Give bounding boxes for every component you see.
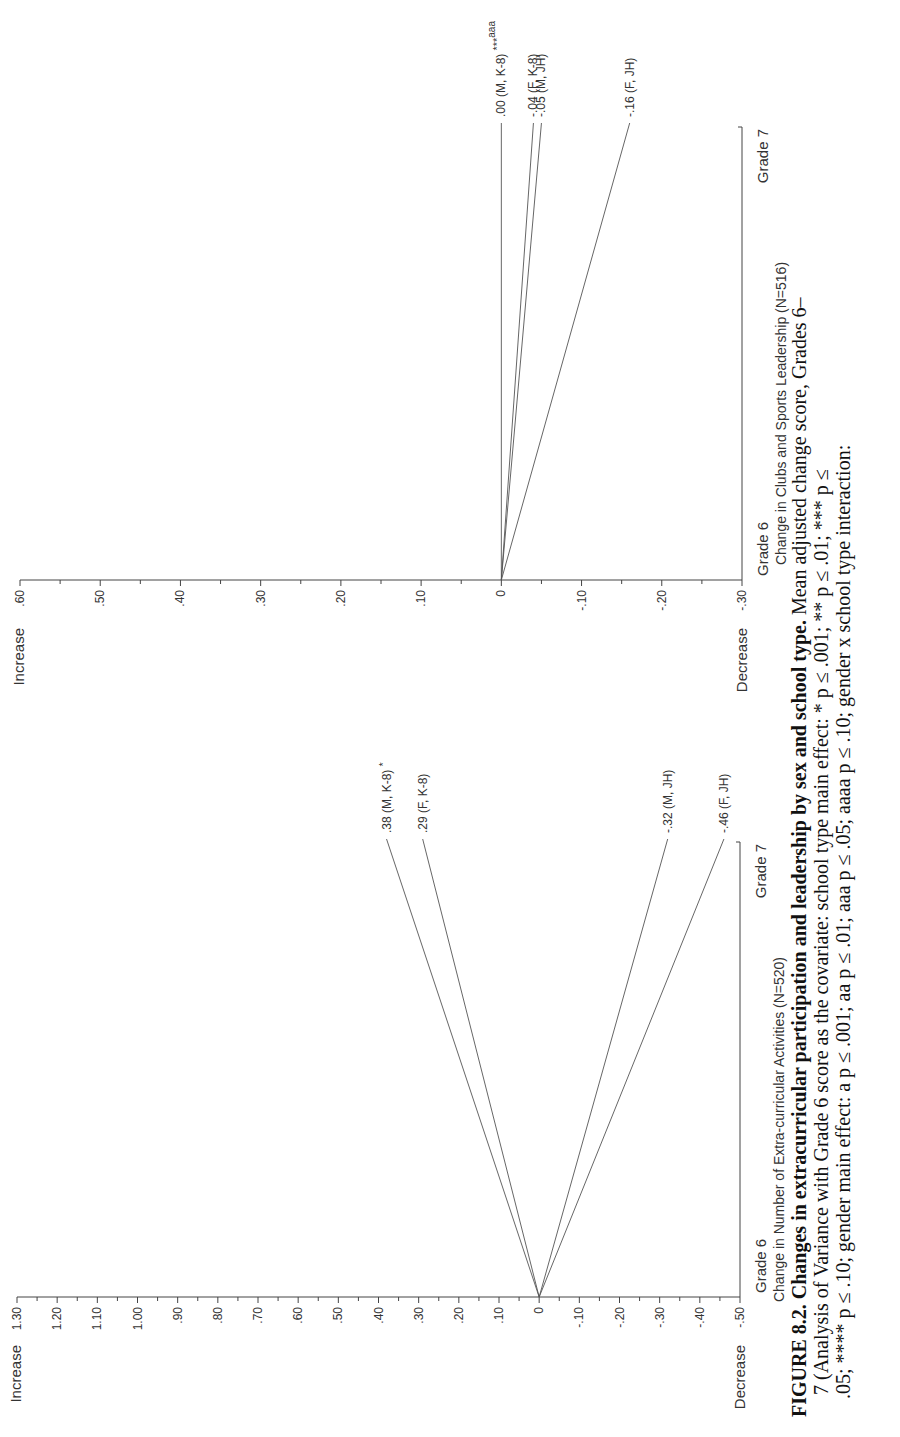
series-line bbox=[387, 839, 540, 1297]
series-line bbox=[539, 839, 724, 1297]
caption-line1-rest: Mean adjusted change score, Grades 6– bbox=[788, 297, 810, 615]
figure-caption: FIGURE 8.2. Changes in extracurricular p… bbox=[788, 0, 854, 1417]
tick-label: -.10 bbox=[572, 1307, 586, 1328]
tick-label: -.40 bbox=[693, 1307, 707, 1328]
increase-label: Increase bbox=[7, 1345, 24, 1403]
tick-label: 0 bbox=[494, 590, 508, 597]
tick-label: .90 bbox=[171, 1307, 185, 1324]
tick-label: -.50 bbox=[733, 1307, 747, 1328]
tick-label: .40 bbox=[372, 1307, 386, 1324]
series-end-label: -.32 (M, JH) bbox=[661, 770, 675, 833]
tick-label: -.20 bbox=[655, 590, 669, 611]
grade7-label: Grade 7 bbox=[752, 844, 769, 898]
series-line bbox=[539, 839, 668, 1297]
decrease-label: Decrease bbox=[733, 628, 750, 692]
x-axis-title: Change in Number of Extra-curricular Act… bbox=[771, 957, 787, 1302]
series-line bbox=[423, 839, 539, 1297]
tick-label: .30 bbox=[412, 1307, 426, 1324]
tick-label: 1.30 bbox=[10, 1307, 24, 1331]
tick-label: .40 bbox=[173, 590, 187, 607]
tick-label: .50 bbox=[331, 1307, 345, 1324]
caption-title: Changes in extracurricular participation… bbox=[788, 620, 810, 1299]
series-line bbox=[501, 123, 629, 580]
grade6-label: Grade 6 bbox=[754, 522, 771, 576]
series-end-label: -.05 (M, JH) bbox=[534, 54, 548, 117]
series-end-label: .29 (F, K-8) bbox=[416, 774, 430, 833]
tick-label: .70 bbox=[251, 1307, 265, 1324]
rotated-figure: 1.301.201.101.00.90.80.70.60.50.40.30.20… bbox=[0, 0, 900, 1437]
figure-plots: 1.301.201.101.00.90.80.70.60.50.40.30.20… bbox=[0, 0, 900, 1437]
grade7-label: Grade 7 bbox=[754, 129, 771, 183]
tick-label: .20 bbox=[452, 1307, 466, 1324]
caption-line3: .05; **** p ≤ .10; gender main effect: a… bbox=[832, 0, 854, 1417]
chart-leadership: .60.50.40.30.20.100-.10-.20-.30IncreaseD… bbox=[10, 21, 789, 693]
series-end-label: -.16 (F, JH) bbox=[623, 58, 637, 117]
tick-label: 1.00 bbox=[131, 1307, 145, 1331]
tick-label: 1.20 bbox=[50, 1307, 64, 1331]
series-end-label: -.46 (F, JH) bbox=[717, 774, 731, 833]
series-end-label: .38 (M, K-8) * bbox=[377, 762, 394, 833]
tick-label: .60 bbox=[13, 590, 27, 607]
tick-label: -.30 bbox=[653, 1307, 667, 1328]
tick-label: .60 bbox=[291, 1307, 305, 1324]
caption-line2: 7 (Analysis of Variance with Grade 6 sco… bbox=[810, 0, 832, 1417]
series-line bbox=[501, 123, 541, 580]
series-end-label: .00 (M, K-8) ***aaa bbox=[486, 21, 508, 117]
tick-label: .30 bbox=[254, 590, 268, 607]
tick-label: 0 bbox=[532, 1307, 546, 1314]
tick-label: .80 bbox=[211, 1307, 225, 1324]
series-line bbox=[501, 123, 533, 580]
tick-label: 1.10 bbox=[90, 1307, 104, 1331]
chart-activities: 1.301.201.101.00.90.80.70.60.50.40.30.20… bbox=[7, 762, 787, 1410]
tick-label: .10 bbox=[492, 1307, 506, 1324]
tick-label: -.10 bbox=[575, 590, 589, 611]
tick-label: -.20 bbox=[613, 1307, 627, 1328]
tick-label: .10 bbox=[414, 590, 428, 607]
tick-label: .50 bbox=[93, 590, 107, 607]
tick-label: -.30 bbox=[735, 590, 749, 611]
tick-label: .20 bbox=[334, 590, 348, 607]
x-axis-title: Change in Clubs and Sports Leadership (N… bbox=[773, 262, 789, 565]
caption-label: FIGURE 8.2. bbox=[788, 1304, 810, 1417]
increase-label: Increase bbox=[10, 628, 27, 686]
decrease-label: Decrease bbox=[731, 1345, 748, 1409]
grade6-label: Grade 6 bbox=[752, 1239, 769, 1293]
